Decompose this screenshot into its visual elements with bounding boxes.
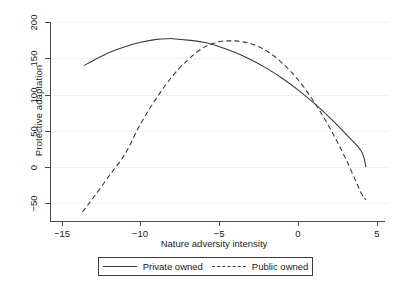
y-tick-label-100: 100 (28, 79, 39, 113)
legend-label-private-owned: Private owned (143, 262, 203, 272)
legend-label-public-owned: Public owned (252, 262, 309, 272)
legend-entry-public-owned[interactable]: Public owned (212, 262, 309, 272)
legend-key-dashed-icon (212, 266, 246, 268)
x-axis-ticks (62, 221, 377, 226)
y-tick-label-150: 150 (28, 42, 39, 76)
legend-key-solid-icon (103, 266, 137, 268)
y-axis-ticks (45, 22, 50, 203)
chart-figure: Protective adaptation 200 150 100 50 0 −… (0, 0, 406, 290)
y-tick-label-50: 50 (28, 115, 39, 149)
x-axis-title: Nature adversity intensity (50, 238, 378, 249)
y-tick-label-neg50: −50 (28, 187, 39, 221)
y-tick-label-0: 0 (28, 151, 39, 185)
series-line-public-owned (82, 41, 366, 212)
legend-entry-private-owned[interactable]: Private owned (103, 262, 203, 272)
chart-legend: Private owned Public owned (98, 257, 313, 276)
gridlines (50, 22, 390, 203)
y-tick-label-200: 200 (28, 6, 39, 40)
